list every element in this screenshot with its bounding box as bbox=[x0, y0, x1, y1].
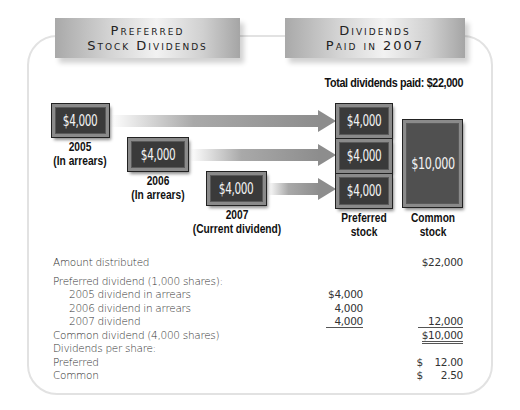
dividend-schedule: Amount distributed $22,000 Preferred div… bbox=[53, 256, 463, 383]
arrow-2005 bbox=[110, 110, 336, 132]
row-label: 2005 dividend in arrears bbox=[69, 288, 191, 302]
row-value: 2.50 bbox=[423, 369, 463, 383]
caption-year: 2005 bbox=[46, 140, 114, 154]
caption-2006: 2006 (In arrears) bbox=[118, 174, 198, 202]
caption-line: Common bbox=[401, 211, 466, 225]
preferred-box-1: $4,000 bbox=[336, 104, 392, 138]
table-row: 2005 dividend in arrears $4,000 bbox=[53, 288, 463, 302]
row-amount: 4,000 bbox=[334, 302, 363, 316]
caption-2007: 2007 (Current dividend) bbox=[182, 208, 292, 236]
row-label: Dividends per share: bbox=[53, 342, 156, 356]
caption-line: Preferred bbox=[332, 211, 397, 225]
dividend-box-2006: $4,000 bbox=[128, 138, 188, 171]
total-dividends-label: Total dividends paid: $22,000 bbox=[324, 76, 463, 90]
row-total: 12,000 bbox=[418, 315, 463, 328]
dividend-box-2005: $4,000 bbox=[52, 104, 109, 137]
caption-common-stock: Common stock bbox=[395, 211, 471, 239]
row-label: Amount distributed bbox=[53, 256, 149, 270]
caption-year: 2006 bbox=[124, 174, 192, 188]
header-right-line2: Paid in 2007 bbox=[285, 38, 465, 53]
row-label: Common bbox=[53, 369, 99, 383]
row-total: $12.00 bbox=[417, 356, 463, 370]
table-row: 2006 dividend in arrears 4,000 bbox=[53, 302, 463, 316]
common-stock-box: $10,000 bbox=[403, 120, 462, 207]
table-row: 2007 dividend 4,000 12,000 bbox=[53, 315, 463, 329]
table-row: Preferred dividend (1,000 shares): bbox=[53, 275, 463, 289]
row-label: 2006 dividend in arrears bbox=[69, 302, 191, 316]
header-right-line1: Dividends bbox=[285, 23, 465, 38]
preferred-box-3: $4,000 bbox=[336, 174, 392, 208]
table-row: Preferred $12.00 bbox=[53, 356, 463, 370]
header-left-line1: Preferred bbox=[55, 23, 240, 38]
caption-note: (Current dividend) bbox=[190, 222, 284, 236]
header-preferred-stock-dividends: Preferred Stock Dividends bbox=[55, 18, 240, 58]
table-row: Dividends per share: bbox=[53, 342, 463, 356]
arrowhead-icon bbox=[318, 110, 336, 132]
table-row: Common $2.50 bbox=[53, 369, 463, 383]
row-label: Preferred dividend (1,000 shares): bbox=[53, 275, 223, 289]
dividend-box-2007: $4,000 bbox=[207, 172, 266, 205]
row-label: 2007 dividend bbox=[69, 315, 140, 329]
preferred-box-2: $4,000 bbox=[336, 139, 392, 173]
arrow-2007 bbox=[268, 178, 336, 200]
caption-year: 2007 bbox=[190, 208, 284, 222]
header-dividends-paid: Dividends Paid in 2007 bbox=[285, 18, 465, 58]
row-total: $2.50 bbox=[417, 369, 463, 383]
caption-note: (In arrears) bbox=[46, 154, 114, 168]
caption-line: stock bbox=[401, 225, 466, 239]
row-label: Common dividend (4,000 shares) bbox=[53, 329, 219, 343]
arrowhead-icon bbox=[318, 144, 336, 166]
table-row: Common dividend (4,000 shares) $10,000 bbox=[53, 329, 463, 343]
caption-2005: 2005 (In arrears) bbox=[40, 140, 120, 168]
arrow-2006 bbox=[190, 144, 336, 166]
arrowhead-icon bbox=[318, 178, 336, 200]
row-total: $22,000 bbox=[422, 256, 463, 270]
header-left-line2: Stock Dividends bbox=[55, 38, 240, 53]
row-amount: $4,000 bbox=[328, 288, 363, 302]
row-label: Preferred bbox=[53, 356, 99, 370]
caption-preferred-stock: Preferred stock bbox=[326, 211, 402, 239]
caption-note: (In arrears) bbox=[124, 188, 192, 202]
row-amount: 4,000 bbox=[326, 315, 363, 328]
caption-line: stock bbox=[332, 225, 397, 239]
table-row: Amount distributed $22,000 bbox=[53, 256, 463, 270]
row-value: 12.00 bbox=[423, 356, 463, 370]
